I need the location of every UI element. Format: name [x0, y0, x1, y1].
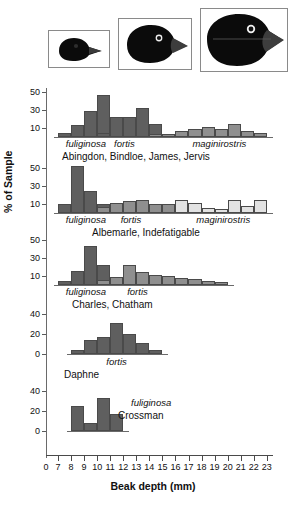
histogram-fortis [97, 233, 228, 285]
bar [254, 200, 267, 213]
x-tick [58, 456, 59, 461]
y-tick [42, 128, 46, 129]
histogram-fuliginosa [71, 385, 123, 431]
species-label-fortis: fortis [121, 215, 142, 225]
y-tick [42, 240, 46, 241]
bar [84, 340, 97, 354]
x-tick-label: 10 [92, 463, 102, 472]
y-tick-label: 10 [30, 272, 40, 281]
species-label-fortis: fortis [127, 287, 148, 297]
y-tick-label: 0 [35, 427, 40, 436]
y-tick [42, 258, 46, 259]
bar [149, 275, 162, 285]
y-tick-label: 50 [30, 88, 40, 97]
x-tick [136, 456, 137, 461]
x-tick-label: 18 [197, 463, 207, 472]
bar [162, 204, 175, 213]
x-tick [97, 456, 98, 461]
location-label: Charles, Chatham [72, 299, 153, 310]
bar [136, 200, 149, 213]
y-tick-label: 50 [30, 164, 40, 173]
y-tick-label: 10 [30, 124, 40, 133]
bar [175, 278, 188, 285]
species-label-fortis: fortis [114, 139, 135, 149]
y-tick-label: 30 [30, 182, 40, 191]
bar [84, 246, 97, 285]
bar [149, 204, 162, 213]
plot-area: 02040 [46, 385, 290, 431]
species-label-fuliginosa: fuliginosa [66, 287, 106, 297]
species-label-maginirostris: maginirostris [192, 139, 246, 149]
plot-area: 103050 [46, 233, 290, 285]
y-tick [42, 186, 46, 187]
x-tick-label: 16 [170, 463, 180, 472]
x-tick-label: 11 [106, 463, 115, 472]
bar [110, 323, 123, 354]
bar [136, 272, 149, 285]
plot-area: 103050 [46, 85, 290, 137]
bar [97, 337, 110, 354]
bar [110, 203, 123, 213]
panel-daphne: 02040 [0, 308, 306, 394]
x-tick-label: 0 [43, 463, 48, 472]
x-tick [123, 456, 124, 461]
x-tick [215, 456, 216, 461]
bird-photo-fuliginosa [48, 30, 110, 68]
x-tick [110, 456, 111, 461]
x-tick [71, 456, 72, 461]
species-baseline [67, 354, 168, 355]
bar [188, 203, 201, 213]
bar [188, 129, 201, 137]
bird-photo-row [0, 0, 306, 78]
x-axis-title: Beak depth (mm) [0, 480, 306, 492]
x-tick-label: 22 [249, 463, 259, 472]
x-tick-label: 21 [236, 463, 246, 472]
x-tick-label: 23 [262, 463, 272, 472]
x-tick-label: 7 [55, 463, 60, 472]
bar [202, 127, 215, 137]
x-tick [175, 456, 176, 461]
y-tick-label: 10 [30, 200, 40, 209]
x-tick-label: 13 [131, 463, 141, 472]
bar [71, 271, 84, 285]
x-tick-label: 15 [157, 463, 167, 472]
y-tick-label: 20 [30, 330, 40, 339]
medium-ground-finch-head-icon [119, 19, 191, 69]
plot-area: 02040 [46, 308, 290, 354]
bar [58, 204, 71, 213]
finch-beak-depth-figure: % of Sample 1030501030501030500204002040… [0, 0, 306, 506]
species-label-maginirostris: maginirostris [196, 215, 250, 225]
small-ground-finch-head-icon [49, 31, 109, 67]
y-tick [42, 354, 46, 355]
histogram-maginirostris [149, 85, 266, 137]
bar [123, 117, 136, 137]
x-tick [84, 456, 85, 461]
location-label: Daphne [64, 369, 99, 380]
x-tick [162, 456, 163, 461]
bar [136, 108, 149, 137]
bar [123, 334, 136, 354]
bar [162, 276, 175, 285]
x-tick-label: 20 [223, 463, 233, 472]
x-tick [149, 456, 150, 461]
y-tick-label: 40 [30, 387, 40, 396]
x-tick-label: 12 [118, 463, 128, 472]
bar [110, 117, 123, 137]
bar [84, 111, 97, 137]
y-tick [42, 92, 46, 93]
bar [110, 277, 123, 285]
x-axis-line [46, 455, 273, 456]
y-tick [42, 110, 46, 111]
species-baseline [67, 431, 129, 432]
y-tick [42, 168, 46, 169]
x-tick-label: 9 [82, 463, 87, 472]
x-tick [241, 456, 242, 461]
species-label-fortis: fortis [106, 357, 127, 367]
histogram-fortis [71, 308, 162, 354]
large-ground-finch-head-icon [201, 9, 287, 71]
y-tick-label: 20 [30, 407, 40, 416]
bar [84, 191, 97, 213]
species-label-fuliginosa: fuliginosa [66, 215, 106, 225]
y-tick-label: 30 [30, 106, 40, 115]
y-tick [42, 276, 46, 277]
